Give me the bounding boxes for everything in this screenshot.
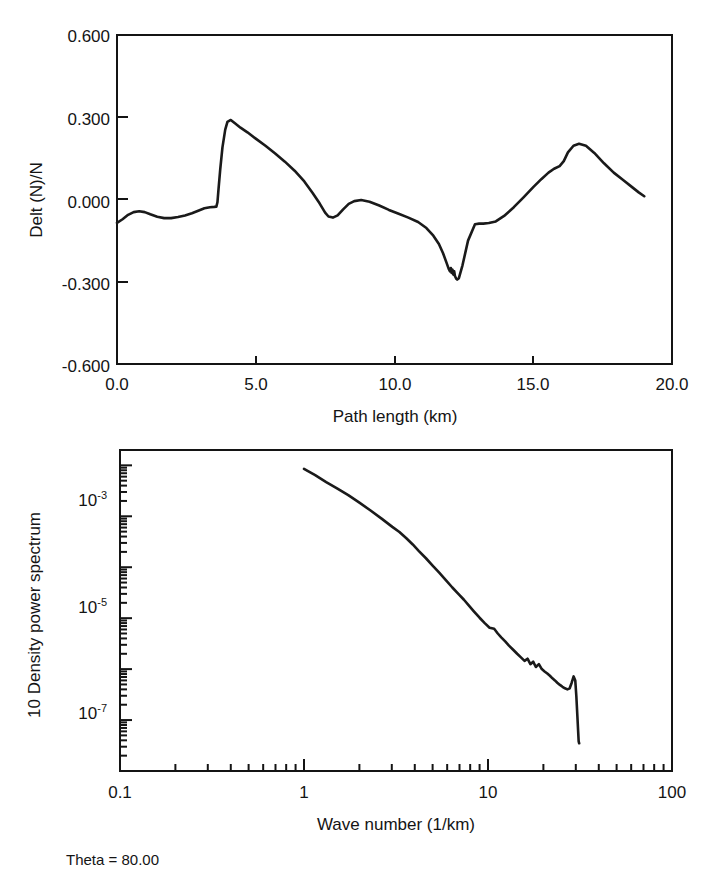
x-ticklabel-1: 5.0	[244, 375, 268, 394]
x-ticklabel-3: 15.0	[516, 375, 549, 394]
x-ticklabel-1: 1	[299, 783, 308, 802]
x-axis-ticklabels: 0.0 5.0 10.0 15.0 20.0	[105, 375, 688, 394]
y-axis-tickmarks	[120, 450, 132, 771]
x-ticklabel-3: 100	[658, 783, 686, 802]
panel-path-length-profile: 0.600 0.300 0.000 -0.300 -0.600 Delt (N)…	[0, 0, 710, 440]
y-ticklabel-0: 10-3	[78, 489, 107, 510]
y-ticklabel-3: -0.300	[62, 275, 110, 294]
x-ticklabel-4: 20.0	[655, 375, 688, 394]
x-axis-title: Wave number (1/km)	[317, 815, 475, 834]
x-ticklabel-2: 10	[479, 783, 498, 802]
y-axis-tickmarks	[117, 35, 128, 364]
theta-annotation: Theta = 80.00	[66, 851, 159, 868]
x-axis-ticklabels: 0.1 1 10 100	[108, 783, 686, 802]
x-ticklabel-0: 0.1	[108, 783, 132, 802]
y-ticklabel-0: 0.600	[67, 27, 110, 46]
plot-frame	[120, 450, 672, 771]
y-ticklabel-2: 0.000	[67, 193, 110, 212]
y-axis-title: 10 Density power spectrum	[25, 512, 44, 718]
y-ticklabel-1: 0.300	[67, 110, 110, 129]
y-axis-title: Delt (N)/N	[27, 162, 46, 238]
plot-frame	[117, 35, 672, 364]
x-axis-tickmarks	[117, 352, 672, 364]
chart-path-length-profile: 0.600 0.300 0.000 -0.300 -0.600 Delt (N)…	[0, 0, 710, 440]
x-ticklabel-0: 0.0	[105, 375, 129, 394]
y-ticklabel-4: -0.600	[62, 357, 110, 376]
x-axis-tickmarks	[120, 759, 672, 771]
data-series-delt-n-over-n	[117, 120, 644, 280]
scientific-figure: 0.600 0.300 0.000 -0.300 -0.600 Delt (N)…	[0, 0, 710, 882]
y-axis-ticklabels: 10-3 10-5 10-7	[78, 489, 107, 723]
y-ticklabel-2: 10-7	[78, 702, 107, 723]
y-axis-ticklabels: 0.600 0.300 0.000 -0.300 -0.600	[62, 27, 110, 376]
x-ticklabel-2: 10.0	[378, 375, 411, 394]
x-axis-title: Path length (km)	[333, 407, 458, 426]
y-ticklabel-1: 10-5	[78, 596, 107, 617]
panel-density-power-spectrum: 10-3 10-5 10-7 10 Density power spectrum…	[0, 440, 710, 882]
chart-density-power-spectrum: 10-3 10-5 10-7 10 Density power spectrum…	[0, 440, 710, 882]
data-series-power-spectrum	[304, 469, 579, 743]
